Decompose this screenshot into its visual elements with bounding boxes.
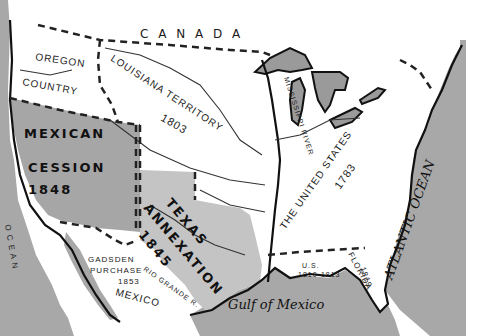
label-purchase: PURCHASE — [90, 266, 142, 275]
label-gulf-of-mexico: Gulf of Mexico — [228, 297, 324, 312]
label-gadsden: GADSDEN — [88, 255, 135, 264]
label-us-1810: U.S. — [302, 262, 320, 269]
label-mexican: MEXICAN — [24, 126, 105, 141]
label-cession-text: CESSION — [28, 160, 105, 175]
label-gadsden-year: 1853 — [118, 277, 140, 286]
label-us-1810-year: 1810-1813 — [298, 271, 340, 278]
label-mexican-year: 1848 — [28, 182, 72, 197]
us-territorial-expansion-map: C A N A D A OREGON COUNTRY LOUISIANA TER… — [0, 0, 477, 336]
label-canada: C A N A D A — [140, 27, 243, 41]
